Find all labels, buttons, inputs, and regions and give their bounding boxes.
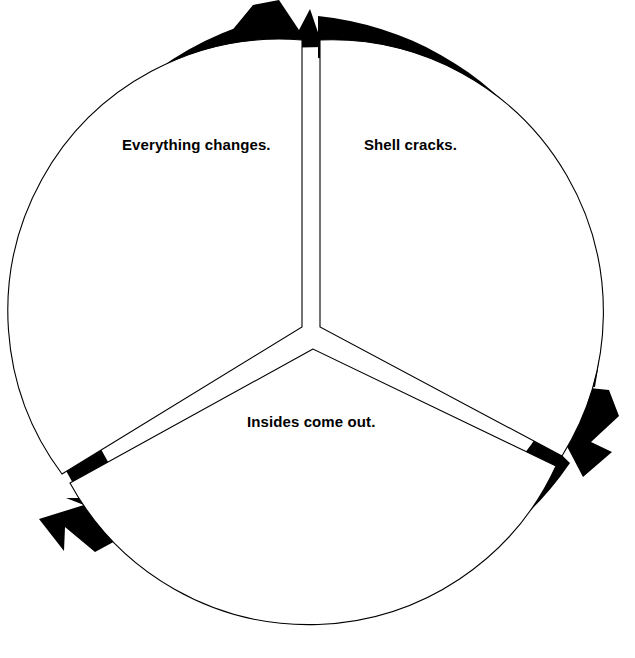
cycle-label-everything-changes: Everything changes. bbox=[122, 136, 271, 153]
cycle-diagram-graphic bbox=[0, 0, 635, 658]
cycle-label-shell-cracks: Shell cracks. bbox=[364, 136, 457, 153]
cycle-diagram: Everything changes. Shell cracks. Inside… bbox=[0, 0, 635, 658]
cycle-label-insides-come-out: Insides come out. bbox=[247, 413, 375, 430]
